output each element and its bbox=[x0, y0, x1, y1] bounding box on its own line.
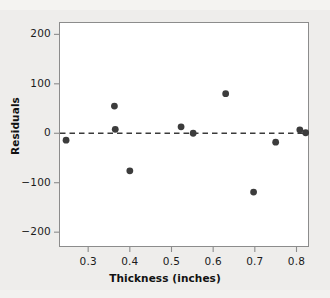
data-point bbox=[272, 139, 279, 146]
y-tick-label: −100 bbox=[5, 176, 51, 188]
data-point bbox=[126, 167, 133, 174]
data-points-group bbox=[63, 90, 309, 195]
data-point bbox=[178, 123, 185, 130]
x-tick-label: 0.8 bbox=[272, 255, 322, 267]
data-point bbox=[250, 189, 257, 196]
data-point bbox=[222, 90, 229, 97]
chart-svg bbox=[0, 0, 330, 298]
y-tick-label: −200 bbox=[5, 225, 51, 237]
data-point bbox=[302, 129, 309, 136]
x-axis-title: Thickness (inches) bbox=[0, 272, 330, 284]
y-axis-title: Residuals bbox=[9, 83, 21, 169]
data-point bbox=[63, 137, 70, 144]
residual-plot-figure: −200−1000100200 0.30.40.50.60.70.8 Thick… bbox=[0, 0, 330, 298]
data-point bbox=[111, 103, 118, 110]
data-point bbox=[296, 126, 303, 133]
axes-group bbox=[54, 34, 297, 252]
data-point bbox=[190, 130, 197, 137]
y-tick-label: 200 bbox=[5, 27, 51, 39]
data-point bbox=[112, 126, 119, 133]
